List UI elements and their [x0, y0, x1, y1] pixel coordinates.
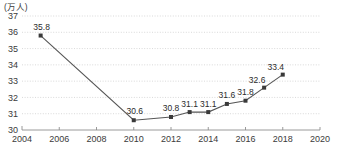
y-tick-label: 32: [8, 93, 18, 103]
data-point-marker: [206, 110, 210, 114]
x-tick-label: 2018: [273, 134, 293, 144]
data-point-label: 35.8: [33, 22, 50, 32]
y-tick-label: 37: [8, 11, 18, 21]
line-chart: 3031323334353637 20042006200820102012201…: [0, 0, 338, 154]
y-tick-label: 35: [8, 44, 18, 54]
data-point-marker: [132, 118, 136, 122]
y-tick-label: 36: [8, 27, 18, 37]
x-tick-label: 2016: [235, 134, 255, 144]
data-point-marker: [188, 110, 192, 114]
x-tick-label: 2008: [86, 134, 106, 144]
y-tick-labels-group: 3031323334353637: [8, 11, 18, 135]
data-point-marker: [225, 102, 229, 106]
x-tick-label: 2012: [161, 134, 181, 144]
x-tick-labels-group: 200420062008201020122014201620182020: [12, 134, 330, 144]
x-tick-label: 2004: [12, 134, 32, 144]
y-axis-unit-label: (万人): [4, 2, 28, 12]
data-point-marker: [39, 34, 43, 38]
chart-canvas: 3031323334353637 20042006200820102012201…: [0, 0, 338, 154]
y-tick-label: 33: [8, 76, 18, 86]
data-point-label: 31.1: [200, 99, 217, 109]
data-point-label: 31.6: [219, 90, 236, 100]
y-tick-label: 34: [8, 60, 18, 70]
series-group: [39, 34, 285, 123]
data-point-marker: [169, 115, 173, 119]
data-point-marker: [244, 99, 248, 103]
data-point-marker: [262, 86, 266, 90]
x-tick-label: 2014: [198, 134, 218, 144]
data-point-label: 33.4: [267, 62, 284, 72]
data-point-label: 32.6: [249, 75, 266, 85]
data-point-label: 31.1: [181, 99, 198, 109]
data-point-marker: [281, 73, 285, 77]
x-tick-label: 2010: [124, 134, 144, 144]
data-point-label: 30.6: [126, 106, 143, 116]
x-axis-group: [22, 126, 320, 130]
x-tick-label: 2006: [49, 134, 69, 144]
x-tick-label: 2020: [310, 134, 330, 144]
data-point-label: 31.8: [237, 87, 254, 97]
data-point-label: 30.8: [163, 103, 180, 113]
y-tick-label: 31: [8, 109, 18, 119]
